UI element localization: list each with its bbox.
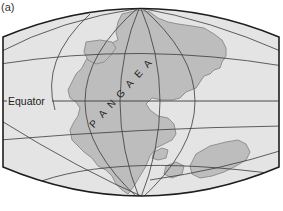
- equator-label: Equator: [8, 95, 45, 107]
- pangaea-map: Equator PANGAEA: [0, 0, 283, 211]
